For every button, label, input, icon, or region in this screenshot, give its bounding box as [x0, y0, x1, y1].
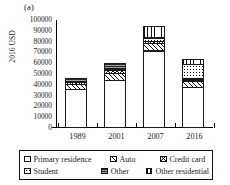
legend-swatch-icon: [160, 156, 167, 163]
bar-group: [136, 20, 175, 128]
stacked-bar[interactable]: [104, 64, 126, 128]
legend-item[interactable]: Other: [101, 167, 146, 176]
legend-swatch-icon: [24, 156, 31, 163]
chart-legend: Primary residenceAutoCredit cardStudentO…: [19, 150, 213, 180]
legend-swatch-icon: [24, 168, 31, 175]
legend-label: Auto: [120, 155, 136, 164]
legend-row: StudentOtherOther residential: [24, 165, 209, 177]
bar-group: [58, 20, 97, 128]
stacked-bar[interactable]: [143, 27, 165, 128]
y-tick-label: 10000: [8, 113, 52, 120]
legend-item[interactable]: Credit card: [160, 155, 205, 164]
stacked-bar[interactable]: [182, 60, 204, 128]
legend-item[interactable]: Other residential: [146, 167, 209, 176]
plot-area: 0100002000030000400005000060000700008000…: [56, 20, 212, 128]
x-tick-mark: [97, 123, 98, 128]
bar-segment[interactable]: [182, 87, 204, 128]
y-tick-label: 100000: [8, 16, 52, 23]
stacked-bar[interactable]: [65, 79, 87, 128]
legend-label: Primary residence: [34, 155, 92, 164]
legend-swatch-icon: [101, 168, 108, 175]
bar-segment[interactable]: [143, 51, 165, 128]
y-tick-label: 70000: [8, 49, 52, 56]
legend-item[interactable]: Student: [24, 167, 101, 176]
x-tick-mark: [58, 123, 59, 128]
bar-group: [175, 20, 214, 128]
figure-panel-a: (a) 2016 USD 010000200003000040000500006…: [0, 0, 230, 185]
bar-segment[interactable]: [143, 26, 165, 38]
legend-swatch-icon: [110, 156, 117, 163]
y-tick-label: 40000: [8, 81, 52, 88]
legend-row: Primary residenceAutoCredit card: [24, 153, 209, 165]
y-tick-label: 30000: [8, 92, 52, 99]
y-tick-label: 80000: [8, 38, 52, 45]
y-tick-label: 20000: [8, 103, 52, 110]
legend-label: Student: [34, 167, 58, 176]
x-tick-mark: [175, 123, 176, 128]
legend-swatch-icon: [146, 168, 153, 175]
bar-segment[interactable]: [65, 89, 87, 128]
bar-group: [97, 20, 136, 128]
legend-label: Credit card: [170, 155, 206, 164]
x-tick-mark: [214, 123, 215, 128]
legend-label: Other: [111, 167, 129, 176]
legend-item[interactable]: Auto: [110, 155, 160, 164]
y-tick-label: 50000: [8, 70, 52, 77]
y-tick-label: 0: [8, 124, 52, 131]
bar-segment[interactable]: [182, 64, 204, 79]
y-tick-label: 60000: [8, 59, 52, 66]
x-tick-mark: [136, 123, 137, 128]
y-axis-line: [56, 20, 57, 128]
bar-segment[interactable]: [104, 80, 126, 128]
y-tick-label: 90000: [8, 27, 52, 34]
legend-label: Other residential: [155, 167, 209, 176]
x-tick-label: 2016: [171, 132, 219, 141]
legend-item[interactable]: Primary residence: [24, 155, 110, 164]
panel-letter: (a): [24, 2, 34, 12]
